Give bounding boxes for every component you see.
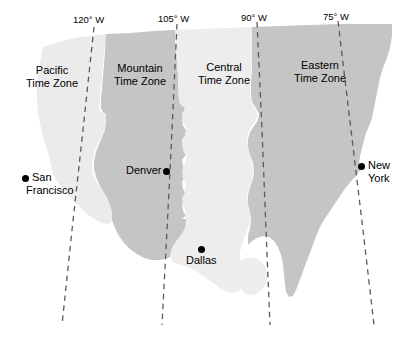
zone-label-central-line1: Central — [184, 61, 264, 74]
zone-label-eastern: Eastern Time Zone — [280, 59, 360, 84]
time-zone-map: 120° W 105° W 90° W 75° W Pacific Time Z… — [0, 0, 419, 341]
city-label-new-york: New York — [368, 159, 390, 184]
city-dot-denver — [163, 168, 170, 175]
city-label-san-francisco-line1: San — [32, 171, 74, 184]
city-marker-new-york: New York — [358, 159, 390, 184]
city-dot-dallas — [198, 246, 205, 253]
zone-label-pacific-line2: Time Zone — [10, 77, 94, 90]
city-dot-new-york — [358, 163, 365, 170]
longitude-label-120w: 120° W — [73, 15, 104, 25]
city-marker-dallas: Dallas — [186, 246, 217, 267]
longitude-label-75w: 75° W — [323, 12, 349, 22]
city-dot-san-francisco — [22, 175, 29, 182]
longitude-label-90w: 90° W — [241, 13, 267, 23]
city-label-new-york-line1: New — [368, 159, 390, 172]
zone-label-mountain-line1: Mountain — [99, 62, 181, 75]
zone-label-pacific: Pacific Time Zone — [10, 64, 94, 89]
zone-label-eastern-line1: Eastern — [280, 59, 360, 72]
zone-label-mountain: Mountain Time Zone — [99, 62, 181, 87]
city-marker-denver: Denver — [126, 164, 170, 177]
city-label-denver: Denver — [126, 164, 161, 177]
zone-label-pacific-line1: Pacific — [10, 64, 94, 77]
city-label-dallas: Dallas — [186, 254, 217, 267]
zone-shape-central-gulf — [240, 258, 268, 295]
city-label-new-york-line2: York — [368, 172, 390, 185]
zone-label-mountain-line2: Time Zone — [99, 75, 181, 88]
longitude-label-105w: 105° W — [158, 14, 189, 24]
zone-label-eastern-line2: Time Zone — [280, 72, 360, 85]
city-label-san-francisco: San Francisco — [32, 171, 74, 196]
city-marker-san-francisco: San Francisco — [22, 171, 74, 196]
city-label-san-francisco-line2: Francisco — [26, 184, 74, 197]
zone-label-central-line2: Time Zone — [184, 74, 264, 87]
zone-label-central: Central Time Zone — [184, 61, 264, 86]
